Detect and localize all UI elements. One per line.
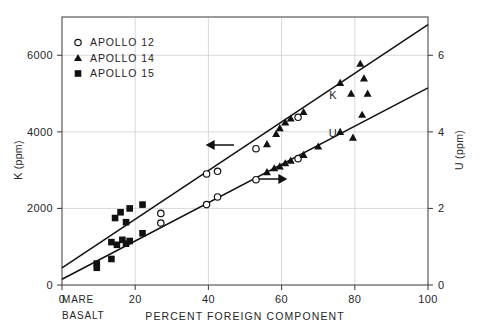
data-point-filled-triangle	[263, 168, 271, 175]
data-point-filled-square	[126, 205, 133, 212]
y2-axis-title: U (ppm)	[453, 130, 465, 170]
data-point-filled-square	[117, 209, 124, 216]
data-point-filled-triangle	[336, 79, 344, 86]
data-point-filled-square	[139, 230, 146, 237]
data-point-open-circle	[253, 177, 259, 183]
tick-labels-group: 02040608010002000400060000246	[27, 49, 445, 305]
data-point-filled-triangle	[263, 140, 271, 147]
data-point-open-circle	[214, 168, 220, 174]
arrow-to-left-axis	[207, 141, 234, 149]
y2-tick-label: 4	[438, 126, 445, 138]
series-label-K: K	[329, 89, 337, 101]
data-point-filled-triangle	[360, 74, 368, 81]
data-point-open-circle	[203, 171, 209, 177]
data-point-open-circle	[253, 146, 259, 152]
data-point-open-circle	[158, 220, 164, 226]
legend-label-2: APOLLO 15	[90, 67, 155, 79]
data-point-filled-triangle	[358, 111, 366, 118]
data-point-filled-square	[93, 264, 100, 271]
x-tick-label: 100	[418, 293, 438, 305]
data-point-filled-triangle	[349, 134, 357, 141]
data-point-filled-square	[139, 201, 146, 208]
series-label-U: U	[329, 127, 337, 139]
data-point-filled-square	[126, 238, 133, 245]
data-point-filled-triangle	[364, 90, 372, 97]
x-axis-title: PERCENT FOREIGN COMPONENT	[145, 310, 344, 322]
mare-annotation-line2: BASALT	[62, 310, 104, 321]
data-point-filled-square	[108, 256, 115, 263]
data-point-filled-square	[123, 219, 130, 226]
data-point-filled-triangle	[356, 60, 364, 67]
y2-tick-label: 2	[438, 202, 445, 214]
y-axis-title: K (ppm)	[12, 140, 24, 179]
tickmarks-group	[57, 55, 433, 290]
y2-tick-label: 6	[438, 49, 445, 61]
chart-figure: 02040608010002000400060000246 KU APOLLO …	[0, 0, 480, 325]
data-point-open-circle	[295, 155, 301, 161]
legend-label-1: APOLLO 14	[90, 52, 155, 64]
data-point-open-circle	[203, 201, 209, 207]
legend-marker-0	[75, 39, 81, 45]
y-tick-label: 4000	[27, 126, 53, 138]
fit-line-U	[62, 88, 428, 279]
x-tick-label: 60	[275, 293, 288, 305]
data-point-filled-square	[112, 215, 119, 222]
x-tick-label: 20	[129, 293, 142, 305]
y-tick-label: 0	[46, 279, 53, 291]
legend-label-0: APOLLO 12	[90, 36, 155, 48]
series-labels-group: KU	[329, 89, 337, 139]
y-tick-label: 6000	[27, 49, 53, 61]
axis-pointer-arrows	[207, 141, 286, 183]
y2-tick-label: 0	[438, 279, 445, 291]
chart-canvas: 02040608010002000400060000246 KU APOLLO …	[0, 0, 480, 325]
legend-marker-2	[75, 70, 82, 77]
data-point-open-circle	[214, 194, 220, 200]
data-point-filled-triangle	[336, 128, 344, 135]
arrow-to-right-axis	[258, 175, 286, 183]
data-point-filled-triangle	[347, 90, 355, 97]
legend: APOLLO 12APOLLO 14APOLLO 15	[74, 36, 155, 79]
mare-annotation-line1: MARE	[62, 294, 94, 305]
x-tick-label: 40	[202, 293, 215, 305]
data-point-open-circle	[158, 210, 164, 216]
x-tick-label: 80	[348, 293, 361, 305]
y-tick-label: 2000	[27, 202, 53, 214]
